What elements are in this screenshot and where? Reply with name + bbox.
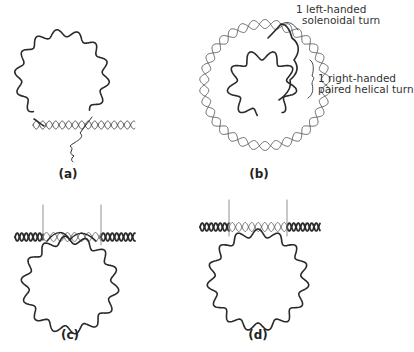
panel-label-a: (a)	[58, 167, 77, 181]
panel-a-diagram	[15, 30, 135, 162]
right-handed-line2: paired helical turn	[318, 84, 414, 95]
dna-loop	[15, 30, 109, 112]
panel-label-c: (c)	[61, 328, 79, 342]
dna-helix-middle	[229, 223, 287, 232]
panel-label-d: (d)	[248, 328, 268, 342]
dna-loop	[207, 229, 308, 330]
left-handed-line2: solenoidal turn	[296, 15, 380, 26]
single-strand-tail	[70, 117, 92, 162]
left-handed-annotation: 1 left-handed solenoidal turn	[296, 4, 380, 26]
panel-d-diagram	[200, 200, 320, 330]
inner-dna-loop	[228, 52, 297, 116]
panel-b-diagram	[200, 20, 330, 151]
dna-helix-middle	[229, 223, 287, 232]
dna-loop	[21, 236, 118, 333]
panel-label-b: (b)	[249, 167, 269, 181]
panel-c-diagram	[15, 205, 135, 334]
right-handed-bracket	[308, 60, 314, 98]
right-handed-annotation: 1 right-handed paired helical turn	[318, 73, 414, 95]
